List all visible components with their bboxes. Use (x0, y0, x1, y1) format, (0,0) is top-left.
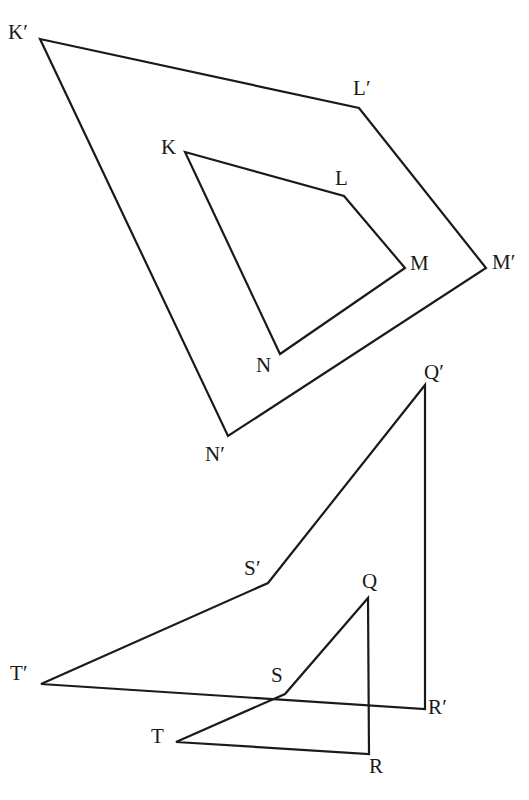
shape-group (40, 39, 486, 754)
label-l-prime: L′ (353, 78, 371, 99)
label-q-prime: Q′ (424, 362, 444, 383)
label-k-prime: K′ (8, 22, 28, 43)
inner-quadrilateral-klmn (185, 152, 405, 354)
label-t: T (151, 726, 164, 747)
label-m: M (410, 253, 429, 274)
diagram-canvas (0, 0, 529, 800)
label-k: K (161, 137, 176, 158)
label-r: R (369, 756, 383, 777)
label-t-prime: T′ (10, 663, 28, 684)
label-r-prime: R′ (428, 697, 447, 718)
label-q: Q (362, 571, 377, 592)
label-l: L (335, 168, 348, 189)
label-n: N (256, 355, 271, 376)
label-s-prime: S′ (244, 558, 261, 579)
label-n-prime: N′ (205, 444, 225, 465)
geometry-figure: K′L′M′N′KLMNQ′S′QT′SR′TR (0, 0, 529, 800)
label-m-prime: M′ (492, 252, 516, 273)
label-s: S (271, 665, 283, 686)
